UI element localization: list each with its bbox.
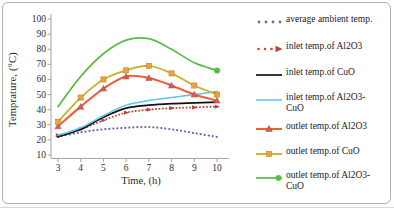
series-1	[56, 105, 220, 138]
legend-item-6: outlet temp.of Al2O3-CuO	[256, 170, 386, 191]
square-marker	[266, 151, 271, 156]
y-tick-label: 20	[37, 135, 47, 145]
legend-label-6: outlet temp.of Al2O3-CuO	[286, 170, 386, 191]
y-tick-label: 100	[32, 14, 47, 24]
legend-label-line: CuO	[286, 181, 386, 192]
y-tick-label: 40	[37, 105, 47, 115]
circle-marker	[214, 67, 220, 73]
legend-label-4: outlet temp.of Al2O3	[286, 121, 386, 132]
dot	[264, 48, 267, 51]
square-marker	[192, 83, 197, 88]
legend-swatch-4	[256, 123, 283, 135]
x-axis-title: Time, (h)	[51, 175, 231, 186]
legend-label-line: outlet temp.of Al2O3	[286, 121, 386, 132]
legend-swatch-5	[256, 148, 283, 160]
legend-label-line: inlet temp.of CuO	[286, 67, 386, 78]
legend-item-5: outlet temp.of CuO	[256, 146, 386, 160]
x-tick-label: 6	[124, 163, 129, 173]
x-tick-label: 8	[169, 163, 174, 173]
legend-item-1: inlet temp.of Al2O3	[256, 41, 386, 55]
square-marker	[124, 68, 129, 73]
arrow-marker	[276, 46, 283, 52]
x-tick-label: 3	[56, 163, 61, 173]
series-4	[55, 73, 220, 128]
legend-item-4: outlet temp.of Al2O3	[256, 121, 386, 135]
square-marker	[214, 92, 219, 97]
legend-label-line: outlet temp.of CuO	[286, 146, 386, 157]
legend-label-line: CuO	[286, 103, 386, 114]
y-tick-label: 90	[37, 29, 47, 39]
legend-label-0: average ambient temp.	[286, 14, 386, 25]
x-tick-label: 7	[146, 163, 151, 173]
legend-label-1: inlet temp.of Al2O3	[286, 41, 386, 52]
x-tick-label: 5	[101, 163, 106, 173]
y-tick-label: 10	[37, 150, 47, 160]
legend-label-line: inlet temp.of Al2O3	[286, 41, 386, 52]
legend-label-line: inlet temp.of Al2O3-	[286, 92, 386, 103]
legend-label-line: average ambient temp.	[286, 14, 386, 25]
chart-figure: 102030405060708090100345678910 Tempratur…	[0, 0, 394, 210]
square-marker	[55, 119, 60, 124]
x-tick-label: 4	[78, 163, 83, 173]
legend-label-5: outlet temp.of CuO	[286, 146, 386, 157]
y-tick-label: 80	[37, 44, 47, 54]
legend-swatch-1	[256, 43, 283, 55]
square-marker	[169, 71, 174, 76]
dot	[257, 48, 260, 51]
square-marker	[101, 77, 106, 82]
x-tick-label: 9	[192, 163, 197, 173]
arrow-marker	[215, 105, 220, 109]
dot	[258, 21, 261, 24]
legend-swatch-3	[256, 94, 283, 106]
chart-legend: average ambient temp.inlet temp.of Al2O3…	[256, 0, 392, 210]
legend-label-line: outlet temp.of Al2O3-	[286, 170, 386, 181]
legend-item-2: inlet temp.of CuO	[256, 67, 386, 81]
legend-label-3: inlet temp.of Al2O3-CuO	[286, 92, 386, 113]
legend-label-2: inlet temp.of CuO	[286, 67, 386, 78]
legend-swatch-2	[256, 69, 283, 81]
arrow-marker	[192, 105, 197, 109]
legend-item-3: inlet temp.of Al2O3-CuO	[256, 92, 386, 113]
y-tick-label: 70	[37, 59, 47, 69]
page-edge-line	[0, 207, 394, 208]
y-tick-label: 30	[37, 120, 47, 130]
legend-swatch-0	[256, 16, 283, 28]
legend-swatch-6	[256, 172, 283, 184]
y-axis-title: Temprature, (°C)	[7, 16, 18, 164]
circle-marker	[276, 175, 282, 181]
y-tick-label: 60	[37, 74, 47, 84]
arrow-marker	[124, 111, 129, 115]
square-marker	[78, 95, 83, 100]
dot	[265, 21, 268, 24]
series-line-1	[58, 107, 217, 136]
x-tick-label: 10	[212, 163, 222, 173]
arrow-marker	[169, 106, 174, 110]
dot	[279, 21, 282, 24]
legend-item-0: average ambient temp.	[256, 14, 386, 28]
arrow-marker	[147, 108, 152, 112]
dot	[272, 21, 275, 24]
square-marker	[146, 63, 151, 68]
y-tick-label: 50	[37, 90, 47, 100]
dot	[270, 48, 273, 51]
